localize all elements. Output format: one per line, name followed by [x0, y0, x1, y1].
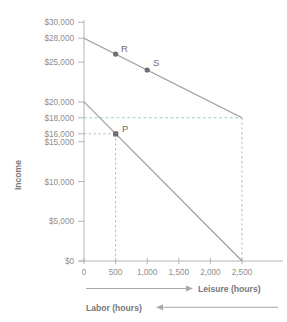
y-axis-title-text: Income [13, 160, 23, 190]
leisure-direction-annotation: Leisure (hours) [86, 284, 261, 294]
point-marker-r [113, 52, 118, 57]
upper-budget-constraint-line [84, 38, 242, 118]
point-label-s: S [153, 57, 159, 68]
x-tick-label-1000: 1,000 [137, 268, 158, 277]
x-axis-tick-labels: 0 500 1,000 1,500 2,000 2,500 [82, 268, 253, 277]
x-tick-label-1500: 1,500 [169, 268, 190, 277]
x-tick-label-500: 500 [109, 268, 123, 277]
point-marker-s [145, 67, 150, 72]
y-tick-label-18000: $18,000 [44, 114, 74, 123]
point-marker-p [113, 131, 118, 136]
labor-axis-label: Labor (hours) [86, 303, 142, 313]
y-tick-label-25000: $25,000 [44, 58, 74, 67]
data-point-markers [113, 52, 150, 137]
y-axis-title: Income [13, 160, 23, 190]
y-tick-label-20000: $20,000 [44, 98, 74, 107]
y-axis-ticks [78, 22, 84, 261]
y-tick-label-30000: $30,000 [44, 18, 74, 27]
data-point-labels: R S P [121, 43, 159, 135]
leisure-axis-label: Leisure (hours) [198, 284, 261, 294]
point-label-r: R [121, 43, 128, 54]
lower-budget-constraint-line [84, 102, 242, 261]
leisure-arrow-head-icon [186, 286, 193, 292]
y-tick-label-10000: $10,000 [44, 178, 74, 187]
x-tick-label-2000: 2,000 [200, 268, 221, 277]
y-tick-label-15000: $15,000 [44, 138, 74, 147]
income-leisure-budget-constraint-chart: $30,000 $28,000 $25,000 $20,000 $18,000 … [0, 0, 287, 322]
x-tick-label-0: 0 [82, 268, 87, 277]
y-tick-label-5000: $5,000 [49, 217, 74, 226]
guide-lines [84, 118, 242, 261]
point-label-p: P [122, 123, 128, 134]
labor-arrow-head-icon [156, 304, 163, 310]
y-tick-label-28000: $28,000 [44, 34, 74, 43]
labor-direction-annotation: Labor (hours) [86, 303, 278, 313]
x-tick-label-2500: 2,500 [232, 268, 253, 277]
y-tick-label-0: $0 [65, 257, 75, 266]
chart-container: $30,000 $28,000 $25,000 $20,000 $18,000 … [0, 0, 287, 322]
y-axis-tick-labels: $30,000 $28,000 $25,000 $20,000 $18,000 … [44, 18, 74, 266]
